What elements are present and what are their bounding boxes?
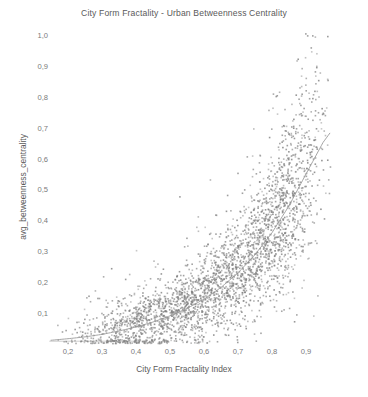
scatter-plot-figure: City Form Fractality - Urban Betweenness… bbox=[0, 0, 368, 397]
scatter-points bbox=[57, 33, 331, 344]
plot-canvas bbox=[0, 0, 368, 397]
fit-line bbox=[51, 133, 330, 340]
